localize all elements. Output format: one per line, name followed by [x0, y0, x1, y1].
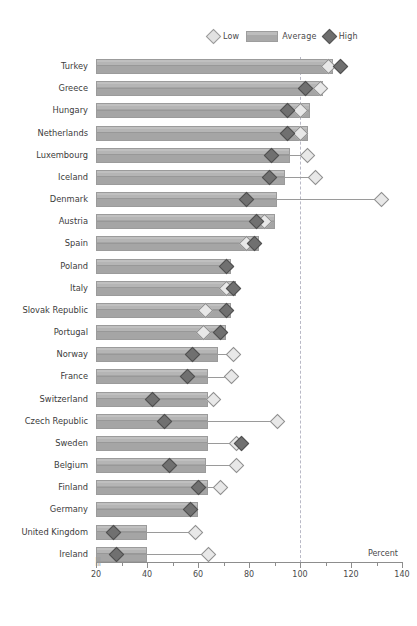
category-label: Czech Republic	[0, 414, 96, 429]
axis-tick-minor	[377, 562, 378, 566]
axis-tick-major	[198, 562, 199, 568]
axis-tick-minor	[173, 562, 174, 566]
axis-tick-minor	[122, 562, 123, 566]
category-label: Ireland	[0, 547, 96, 562]
diamond-light-icon	[206, 29, 222, 45]
average-bar	[96, 436, 208, 451]
axis-tick-major	[351, 562, 352, 568]
category-label: Greece	[0, 81, 96, 96]
low-marker	[213, 480, 229, 496]
category-label: Sweden	[0, 436, 96, 451]
average-bar	[96, 259, 231, 274]
legend-label-average: Average	[282, 32, 316, 41]
low-marker	[308, 170, 324, 186]
chart-row: Turkey	[96, 57, 402, 79]
category-label: Portugal	[0, 325, 96, 340]
category-label: Germany	[0, 502, 96, 517]
category-label: Italy	[0, 281, 96, 296]
chart-row: Belgium	[96, 456, 402, 478]
bar-swatch-icon	[246, 31, 278, 42]
chart-row: United Kingdom	[96, 523, 402, 545]
axis-tick-minor	[326, 562, 327, 566]
chart-row: Netherlands	[96, 124, 402, 146]
axis-tick-label: 100	[292, 570, 307, 579]
chart-row: Slovak Republic	[96, 301, 402, 323]
chart-row: Poland	[96, 257, 402, 279]
category-label: Switzerland	[0, 392, 96, 407]
axis-tick-major	[147, 562, 148, 568]
chart-row: Denmark	[96, 190, 402, 212]
category-label: Netherlands	[0, 126, 96, 141]
axis-tick-major	[300, 562, 301, 568]
chart-legend: Low Average High	[208, 31, 358, 42]
axis-tick-label: 60	[193, 570, 203, 579]
axis-tick-minor	[275, 562, 276, 566]
low-marker	[200, 546, 216, 562]
axis-tick-label: 20	[91, 570, 101, 579]
category-label: Iceland	[0, 170, 96, 185]
average-bar	[96, 148, 290, 163]
category-label: Luxembourg	[0, 148, 96, 163]
category-label: United Kingdom	[0, 525, 96, 540]
legend-label-low: Low	[223, 32, 239, 41]
chart-row: Luxembourg	[96, 146, 402, 168]
axis-tick-label: 80	[244, 570, 254, 579]
diamond-bar-chart: Low Average High TurkeyGreeceHungaryNeth…	[0, 0, 417, 626]
average-bar	[96, 81, 323, 96]
category-label: Slovak Republic	[0, 303, 96, 318]
range-whisker	[170, 465, 236, 466]
chart-row: Czech Republic	[96, 412, 402, 434]
low-marker	[300, 147, 316, 163]
legend-item-low: Low	[208, 31, 239, 42]
range-whisker	[165, 421, 277, 422]
legend-item-high: High	[324, 31, 358, 42]
category-label: Austria	[0, 214, 96, 229]
chart-row: Iceland	[96, 168, 402, 190]
axis-tick-major	[402, 562, 403, 568]
average-bar	[96, 281, 236, 296]
category-label: Spain	[0, 236, 96, 251]
range-whisker	[116, 554, 208, 555]
average-bar	[96, 59, 333, 74]
chart-row: France	[96, 367, 402, 389]
legend-item-average: Average	[246, 31, 316, 42]
low-marker	[228, 458, 244, 474]
category-label: Norway	[0, 347, 96, 362]
axis-tick-major	[96, 562, 97, 568]
category-label: Belgium	[0, 458, 96, 473]
low-marker	[226, 347, 242, 363]
axis-tick-label: 140	[394, 570, 409, 579]
category-label: Poland	[0, 259, 96, 274]
diamond-dark-icon	[321, 29, 337, 45]
chart-row: Austria	[96, 212, 402, 234]
low-marker	[188, 524, 204, 540]
high-marker	[333, 59, 349, 75]
chart-row: Spain	[96, 234, 402, 256]
chart-row: Switzerland	[96, 390, 402, 412]
chart-row: Germany	[96, 500, 402, 522]
category-label: Hungary	[0, 103, 96, 118]
average-bar	[96, 126, 308, 141]
chart-row: Sweden	[96, 434, 402, 456]
axis-tick-label: 120	[343, 570, 358, 579]
range-whisker	[114, 532, 196, 533]
plot-area: TurkeyGreeceHungaryNetherlandsLuxembourg…	[96, 57, 402, 562]
average-bar	[96, 170, 285, 185]
low-marker	[374, 192, 390, 208]
category-label: Turkey	[0, 59, 96, 74]
x-axis: ||| Percent 20406080100120140	[96, 562, 402, 588]
low-marker	[223, 369, 239, 385]
low-marker	[269, 413, 285, 429]
chart-row: Finland	[96, 478, 402, 500]
chart-row: Hungary	[96, 101, 402, 123]
chart-row: Greece	[96, 79, 402, 101]
range-whisker	[152, 399, 213, 400]
chart-row: Italy	[96, 279, 402, 301]
range-whisker	[246, 199, 381, 200]
average-bar	[96, 236, 259, 251]
axis-tick-major	[249, 562, 250, 568]
legend-label-high: High	[339, 32, 358, 41]
average-bar	[96, 103, 310, 118]
axis-tick-minor	[224, 562, 225, 566]
category-label: France	[0, 369, 96, 384]
